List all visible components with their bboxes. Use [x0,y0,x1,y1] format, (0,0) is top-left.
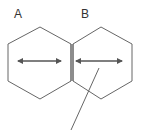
label-b: B [81,8,89,20]
label-a: A [14,8,22,20]
pointer-line [71,68,99,130]
hexagon-a [8,27,71,99]
hexagon-b [73,27,132,99]
